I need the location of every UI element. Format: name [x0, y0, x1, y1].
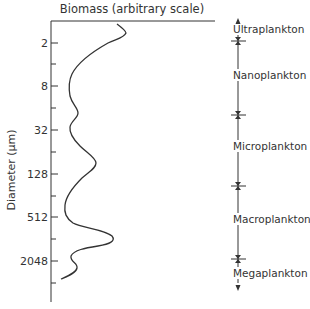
class-boundary — [231, 111, 246, 119]
y-tick-label: 128 — [27, 168, 48, 181]
arrow-down-icon — [236, 285, 241, 291]
left-axis-label: Diameter (μm) — [5, 129, 18, 210]
y-tick-label: 8 — [41, 80, 48, 93]
biomass-chart: Biomass (arbitrary scale) 2 8 32 128 512… — [0, 0, 310, 309]
y-tick-label: 512 — [27, 211, 48, 224]
class-label-ultraplankton: Ultraplankton — [233, 23, 304, 35]
class-label-microplankton: Microplankton — [233, 140, 307, 152]
biomass-curve — [61, 24, 126, 279]
y-tick-label: 32 — [34, 124, 48, 137]
class-boundary — [231, 182, 246, 190]
class-label-megaplankton: Megaplankton — [233, 267, 308, 279]
class-label-macroplankton: Macroplankton — [233, 213, 310, 225]
class-label-nanoplankton: Nanoplankton — [233, 69, 306, 81]
top-axis-label: Biomass (arbitrary scale) — [60, 2, 204, 16]
y-tick-label: 2 — [41, 37, 48, 50]
size-class-scale: Ultraplankton Nanoplankton Microplankton… — [231, 18, 310, 291]
class-boundary — [231, 255, 246, 263]
y-tick-label: 2048 — [20, 255, 48, 268]
class-boundary — [231, 37, 246, 45]
